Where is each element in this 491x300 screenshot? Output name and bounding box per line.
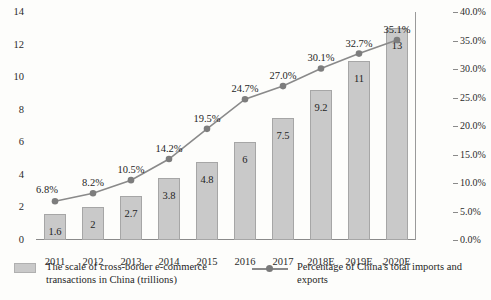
y-axis-right-tick-mark [453,155,458,156]
line-value-label-2014: 14.2% [149,143,189,154]
line-marker-2014 [166,156,173,163]
line-marker-2013 [128,177,135,184]
legend-bar-swatch-icon [14,263,36,273]
line-marker-2011 [52,198,59,205]
legend-line-dot [266,265,273,272]
line-value-label-2015: 19.5% [187,113,227,124]
y-axis-right-tick-mark [453,126,458,127]
y-axis-right-tick-mark [453,98,458,99]
line-marker-2018E [318,65,325,72]
y-axis-right-tick-label: 25.0% [460,93,491,103]
y-axis-right-tick-mark [453,41,458,42]
plot-area: 02468101214 0.0%5.0%10.0%15.0%20.0%25.0%… [36,12,416,240]
line-marker-2016 [242,96,249,103]
legend-item-line-series: Percentage of China's total imports and … [252,260,468,286]
line-value-label-2013: 10.5% [111,164,151,175]
y-axis-right-tick-label: 10.0% [460,178,491,188]
line-value-label-2012: 8.2% [73,177,113,188]
y-axis-right-tick-label: 5.0% [460,207,491,217]
line-marker-2012 [90,190,97,197]
y-axis-left-tick-label: 4 [0,170,24,180]
y-axis-left-tick-label: 8 [0,105,24,115]
legend-line-label: Percentage of China's total imports and … [297,260,468,286]
line-marker-2015 [204,126,211,133]
y-axis-left-tick-label: 10 [0,72,24,82]
line-marker-2017 [280,83,287,90]
chart-legend: The scale of cross-border e-commerce tra… [0,258,468,298]
y-axis-left-tick-label: 0 [0,235,24,245]
line-marker-2020E [394,37,401,44]
y-axis-right-tick-label: 0.0% [460,235,491,245]
legend-bar-label: The scale of cross-border e-commerce tra… [46,260,251,286]
y-axis-right-tick-label: 35.0% [460,36,491,46]
y-axis-left-tick-label: 2 [0,202,24,212]
legend-item-bar-series: The scale of cross-border e-commerce tra… [14,260,251,286]
y-axis-right-tick-mark [453,69,458,70]
y-axis-right-tick-label: 15.0% [460,150,491,160]
y-axis-right-tick-label: 40.0% [460,7,491,17]
y-axis-left-tick-label: 12 [0,40,24,50]
y-axis-left-tick-label: 14 [0,7,24,17]
y-axis-right-tick-label: 30.0% [460,64,491,74]
line-value-label-2020E: 35.1% [377,24,417,35]
y-axis-left-tick-label: 6 [0,137,24,147]
y-axis-right-tick-mark [453,183,458,184]
line-value-label-2011: 6.8% [27,184,67,195]
line-value-label-2019E: 32.7% [339,38,379,49]
legend-line-marker-icon [252,263,288,274]
y-axis-right-tick-label: 20.0% [460,121,491,131]
line-value-label-2016: 24.7% [225,83,265,94]
line-value-label-2017: 27.0% [263,70,303,81]
line-value-label-2018E: 30.1% [301,52,341,63]
line-marker-2019E [356,50,363,57]
y-axis-right-tick-mark [453,240,458,241]
y-axis-right-tick-mark [453,12,458,13]
y-axis-right-tick-mark [453,212,458,213]
